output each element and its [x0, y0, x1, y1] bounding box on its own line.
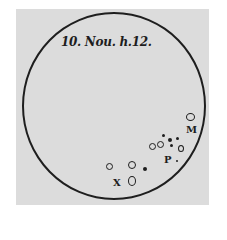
sunspot — [178, 145, 184, 152]
marker-m: M — [186, 124, 197, 135]
sunspot-dot — [176, 160, 178, 162]
sunspot — [186, 113, 195, 121]
sunspot-dot — [143, 167, 147, 171]
sunspot — [128, 161, 136, 169]
sunspot-dot — [168, 138, 172, 142]
sunspot — [149, 143, 156, 150]
sunspot — [106, 163, 113, 170]
marker-p: P — [164, 154, 172, 165]
sunspot-dot — [170, 144, 173, 147]
date-caption: 10. Nou. h.12. — [61, 35, 152, 49]
sunspot-dot — [162, 134, 165, 137]
marker-x: X — [113, 177, 121, 188]
sunspot-dot — [176, 137, 179, 140]
sunspot — [157, 141, 164, 148]
sunspot — [128, 176, 136, 186]
